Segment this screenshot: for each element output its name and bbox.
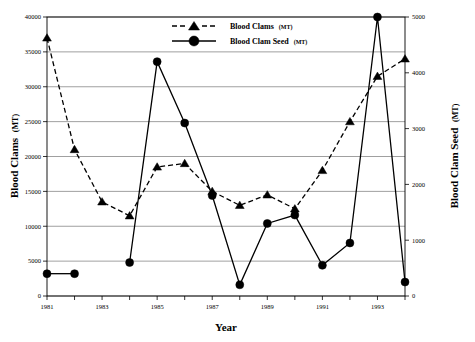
data-point-blood-clam-seed-1989 [263,219,271,227]
y-left-tick-label: 40000 [25,13,41,20]
y-right-tick-label: 2000 [412,181,425,188]
data-point-blood-clam-seed-1990 [291,211,299,219]
x-axis-tick-label: 1987 [206,303,220,310]
data-series-layer [43,13,410,289]
data-point-blood-clam-seed-1987 [208,192,216,200]
data-point-blood-clam-seed-1992 [346,239,354,247]
series-line-blood-clam-seed [130,17,405,285]
x-axis-tick-label: 1983 [96,303,109,310]
y-left-tick-label: 30000 [25,83,41,90]
y-right-title-text: Blood Clam Seed [448,128,460,209]
y-right-tick-label: 5000 [412,13,425,20]
y-left-title-unit: (MT) [11,114,20,133]
data-point-blood-clam-seed-1994 [401,278,409,286]
data-point-blood-clam-seed-1982 [71,270,79,278]
legend: Blood Clams (MT) Blood Clam Seed (MT) [172,22,307,47]
gridlines-group [47,17,405,296]
legend-label-blood-clam-seed: Blood Clam Seed (MT) [230,37,307,46]
data-point-blood-clams-1993 [373,72,382,79]
data-point-blood-clams-1986 [180,159,189,166]
data-point-blood-clam-seed-1984 [126,259,134,267]
y-left-tick-label: 15000 [25,188,41,195]
x-axis-tick-label: 1981 [41,303,54,310]
y-right-tick-label: 4000 [412,69,425,76]
y-left-title-text: Blood Clams [8,137,20,198]
data-point-blood-clams-1981 [43,34,52,41]
y-left-tick-label: 35000 [25,48,41,55]
legend-circle-icon [189,36,199,46]
y-left-tick-label: 10000 [25,223,41,230]
chart-svg: 0500010000150002000025000300003500040000… [0,0,475,342]
y-left-tick-label: 0 [38,292,41,299]
y-left-tick-label: 20000 [25,153,41,160]
data-point-blood-clams-1989 [263,191,272,198]
data-point-blood-clam-seed-1981 [43,270,51,278]
data-point-blood-clam-seed-1985 [153,58,161,66]
legend-label-blood-clams: Blood Clams (MT) [230,22,292,31]
y-left-tick-label: 5000 [28,257,41,264]
data-point-blood-clam-seed-1993 [373,13,381,21]
x-axis-tick-label: 1985 [151,303,164,310]
y-axis-left-ticks: 0500010000150002000025000300003500040000 [25,13,47,299]
data-point-blood-clams-1992 [346,117,355,124]
data-point-blood-clam-seed-1988 [236,281,244,289]
data-point-blood-clams-1994 [401,55,410,62]
chart-container: 0500010000150002000025000300003500040000… [0,0,475,342]
y-axis-right-title: Blood Clam Seed (MT) [448,103,460,208]
x-axis-title: Year [215,321,237,333]
y-axis-left-title: Blood Clams (MT) [8,114,20,199]
data-point-blood-clams-1982 [70,145,79,152]
y-right-tick-label: 1000 [412,237,425,244]
x-axis-tick-label: 1989 [261,303,274,310]
data-point-blood-clam-seed-1986 [181,119,189,127]
legend-triangle-icon [189,22,200,31]
data-point-blood-clams-1991 [318,166,327,173]
y-right-tick-label: 3000 [412,125,425,132]
y-right-tick-label: 0 [412,292,415,299]
y-right-title-unit: (MT) [451,103,460,122]
y-left-tick-label: 25000 [25,118,41,125]
x-axis-ticks: 1981198319851987198919911993 [41,296,406,310]
data-point-blood-clams-1983 [98,198,107,205]
data-point-blood-clams-1984 [125,212,134,219]
data-point-blood-clam-seed-1991 [318,261,326,269]
series-line-blood-clams [47,38,405,216]
y-axis-right-ticks: 010002000300040005000 [405,13,425,299]
x-axis-tick-label: 1993 [371,303,384,310]
x-axis-tick-label: 1991 [316,303,329,310]
